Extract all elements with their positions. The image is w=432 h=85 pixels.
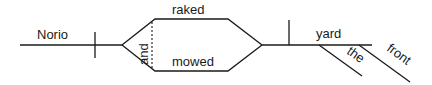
predicate-word-2: mowed <box>172 54 214 69</box>
modifier-word-1: the <box>344 43 367 66</box>
predicate-word-1: raked <box>172 2 205 17</box>
modifier-word-2: front <box>384 40 414 68</box>
conjunction-word: and <box>136 43 151 65</box>
predicate-top-branch <box>122 19 262 45</box>
sentence-diagram: Norio raked mowed and yard the front <box>0 0 432 85</box>
subject-word: Norio <box>37 27 68 42</box>
object-word: yard <box>316 26 341 41</box>
